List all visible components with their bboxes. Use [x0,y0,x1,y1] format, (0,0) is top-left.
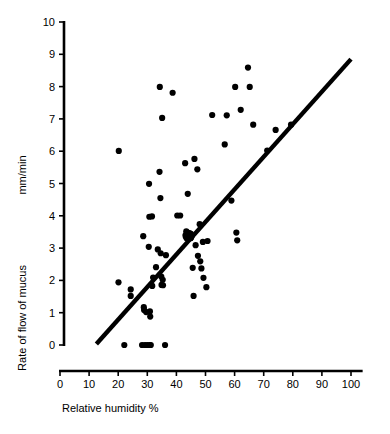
data-point [146,181,152,187]
data-point [146,244,152,250]
y-axis-title-primary: mm/min [16,155,28,194]
y-tick-label: 0 [49,339,55,351]
data-point [238,107,244,113]
x-tick-label: 20 [112,378,124,390]
data-point [204,238,210,244]
x-tick-label: 50 [199,378,211,390]
y-axis-title-secondary: Rate of flow of mucus [16,265,28,371]
data-point [197,258,203,264]
data-point [250,122,256,128]
y-tick-label: 5 [49,178,55,190]
data-point [147,313,153,319]
y-tick-label: 9 [49,48,55,60]
x-tick-label: 80 [287,378,299,390]
data-point [121,342,127,348]
data-point [247,84,253,90]
y-tick-label: 1 [49,307,55,319]
data-point [157,84,163,90]
y-tick-label: 7 [49,113,55,125]
data-point [193,242,199,248]
x-tick-label: 60 [228,378,240,390]
data-point [116,148,122,154]
data-point [222,141,228,147]
data-point [232,84,238,90]
y-tick-label: 4 [49,210,55,222]
x-tick-label: 10 [83,378,95,390]
data-point [190,293,196,299]
y-tick-label: 3 [49,242,55,254]
data-point [140,233,146,239]
data-point [234,237,240,243]
data-point [160,277,166,283]
data-point [245,64,251,70]
data-point [185,191,191,197]
data-point [157,195,163,201]
data-point [159,115,165,121]
data-point [115,279,121,285]
data-point [128,293,134,299]
data-point [160,282,166,288]
x-tick-label: 70 [258,378,270,390]
data-point [191,156,197,162]
y-tick-label: 10 [43,16,55,28]
data-point [190,265,196,271]
scatter-chart: 012345678910 0102030405060708090100 Rela… [0,0,390,434]
data-point [203,284,209,290]
data-point [233,230,239,236]
x-axis: 0102030405060708090100 [57,371,363,390]
x-tick-label: 30 [141,378,153,390]
data-point [200,275,206,281]
data-point [128,286,134,292]
data-point [153,264,159,270]
axis-titles: Relative humidity %mm/minRate of flow of… [16,155,159,414]
data-point [182,160,188,166]
x-tick-label: 100 [342,378,360,390]
x-tick-label: 90 [316,378,328,390]
data-points [115,64,294,348]
y-tick-label: 2 [49,274,55,286]
data-point [198,265,204,271]
data-point [209,112,215,118]
data-point [177,212,183,218]
centroid-marker [182,230,194,242]
y-axis: 012345678910 [43,16,64,351]
x-tick-label: 0 [57,378,63,390]
data-point [162,342,168,348]
data-point [194,166,200,172]
data-point [224,112,230,118]
data-point [163,252,169,258]
data-point [273,127,279,133]
y-tick-label: 8 [49,81,55,93]
x-tick-label: 40 [170,378,182,390]
data-point [170,90,176,96]
data-point [148,342,154,348]
data-point [156,169,162,175]
y-tick-label: 6 [49,145,55,157]
fit-line [96,59,351,344]
regression-line [96,59,351,344]
plot-canvas: 012345678910 0102030405060708090100 Rela… [0,0,390,434]
data-point [195,253,201,259]
x-axis-title: Relative humidity % [62,402,159,414]
data-point [149,213,155,219]
